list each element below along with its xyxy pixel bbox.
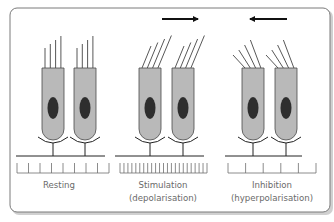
nucleus [281, 97, 292, 119]
panel-label: Resting [43, 180, 75, 190]
nucleus [145, 97, 156, 119]
hair-cell-diagram: Resting Stimulation(depolarisation) Inhi… [0, 0, 334, 222]
nucleus [80, 97, 91, 119]
nucleus [48, 97, 59, 119]
nucleus [248, 97, 259, 119]
panel-label: (hyperpolarisation) [231, 193, 313, 203]
panel-label: (depolarisation) [129, 193, 197, 203]
panel-label: Stimulation [138, 180, 187, 190]
panel-label: Inhibition [252, 180, 292, 190]
nucleus [178, 97, 189, 119]
